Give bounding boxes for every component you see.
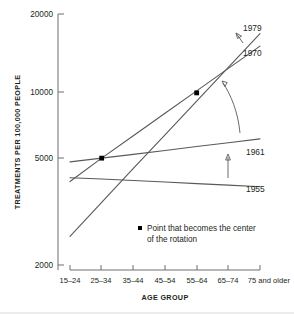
series-line-1961 [70, 139, 260, 162]
y-tick-label-20000: 20000 [30, 10, 53, 19]
legend-label-line1: Point that becomes the center [147, 224, 256, 233]
series-label-1961: 1961 [246, 147, 265, 157]
y-tick-labels: 20000 10000 5000 2000 [30, 10, 53, 270]
y-axis-title: TREATMENTS PER 100,000 PEOPLE [13, 75, 22, 210]
legend-label-line2: of the rotation [147, 235, 198, 244]
rotation-arrow-curved-head [222, 81, 227, 87]
rotation-arrow-upper-head [236, 33, 242, 39]
rotation-arrow-curved [223, 83, 240, 133]
x-axis [70, 265, 260, 270]
chart-figure: 20000 10000 5000 2000 TREATMENTS PER 100… [0, 0, 294, 316]
y-tick-label-2000: 2000 [35, 261, 54, 270]
series-line-1979 [70, 34, 260, 237]
x-tick-label-45-54: 45–54 [154, 276, 175, 285]
chart-svg: 20000 10000 5000 2000 TREATMENTS PER 100… [0, 0, 294, 316]
x-axis-title: AGE GROUP [141, 293, 188, 302]
x-tick-label-65-74: 65–74 [217, 276, 238, 285]
marker-rotation-center-upper [194, 90, 199, 95]
series-line-1955 [70, 178, 260, 187]
x-tick-label-55-64: 55–64 [186, 276, 207, 285]
y-tick-label-10000: 10000 [30, 88, 53, 97]
series-label-1955: 1955 [246, 184, 265, 194]
x-tick-label-75-and-older: 75 and older [248, 276, 291, 285]
series-lines [70, 34, 260, 237]
marker-rotation-center-lower [99, 156, 104, 161]
x-tick-labels: 15–24 25–34 35–44 45–54 55–64 65–74 75 a… [59, 276, 290, 285]
x-tick-label-35-44: 35–44 [122, 276, 143, 285]
rotation-center-markers [99, 90, 199, 160]
legend: Point that becomes the center of the rot… [138, 224, 256, 244]
series-label-1979: 1979 [243, 23, 262, 33]
x-tick-label-25-34: 25–34 [90, 276, 111, 285]
series-label-1970: 1970 [243, 48, 262, 58]
legend-marker-icon [138, 226, 142, 230]
y-tick-label-5000: 5000 [35, 154, 54, 163]
series-labels: 1979 1970 1961 1955 [243, 23, 265, 194]
y-axis [58, 14, 64, 270]
x-tick-label-15-24: 15–24 [59, 276, 80, 285]
series-line-1970 [70, 46, 260, 181]
